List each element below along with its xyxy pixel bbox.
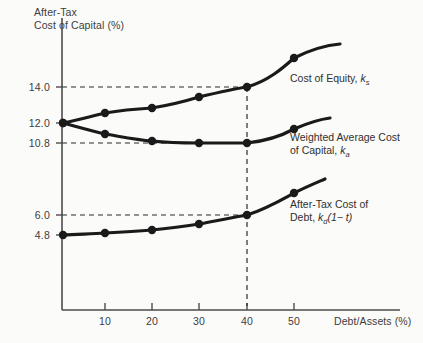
series-line-kd: [63, 179, 325, 235]
x-tick-label-40: 40: [235, 315, 259, 327]
series-label-ks-text: Cost of Equity,: [290, 72, 360, 84]
series-label-ka-line1: Weighted Average Cost: [290, 131, 400, 143]
series-label-after-tax-cost-of-debt: After-Tax Cost of Debt, kd(1− t): [290, 198, 368, 228]
y-axis-title: After-Tax Cost of Capital (%): [34, 6, 124, 31]
series-label-ks-subscript: s: [366, 78, 370, 87]
x-tick-label-30: 30: [187, 315, 211, 327]
series-label-kd-line1: After-Tax Cost of: [290, 198, 368, 210]
series-label-ka-subscript: a: [345, 150, 349, 159]
y-tick-label-48: 4.8: [12, 229, 50, 241]
series-label-kd-tail: (1− t): [327, 211, 352, 223]
chart-canvas: [0, 0, 423, 343]
guide-lines: [62, 87, 247, 306]
series-after-tax-cost-of-debt: [59, 179, 325, 239]
series-label-ka-line2: of Capital,: [290, 144, 340, 156]
y-tick-marks: [56, 87, 62, 235]
y-tick-label-108: 10.8: [12, 137, 50, 149]
x-tick-marks: [105, 303, 294, 310]
series-markers-kd: [59, 189, 298, 239]
x-tick-label-20: 20: [140, 315, 164, 327]
series-label-kd-line2: Debt,: [290, 211, 318, 223]
y-tick-label-6: 6.0: [12, 209, 50, 221]
series-label-cost-of-equity: Cost of Equity, ks: [290, 72, 369, 90]
series-label-wacc: Weighted Average Cost of Capital, ka: [290, 131, 400, 161]
x-tick-label-10: 10: [93, 315, 117, 327]
capital-structure-chart: After-Tax Cost of Capital (%) Debt/Asset…: [0, 0, 423, 343]
x-tick-label-50: 50: [282, 315, 306, 327]
y-tick-label-14: 14.0: [12, 81, 50, 93]
y-tick-label-12: 12.0: [12, 117, 50, 129]
x-axis-title: Debt/Assets (%): [334, 315, 411, 328]
